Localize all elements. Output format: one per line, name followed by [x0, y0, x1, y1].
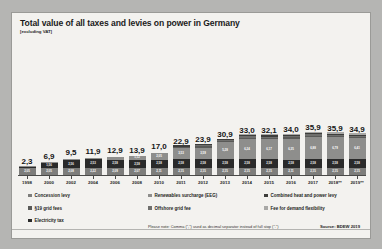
bar-segment-electricity_tax: 2,58 [217, 159, 234, 167]
x-axis-label: 2018** [326, 180, 344, 185]
legend-label: Renewables surcharge (EEG) [155, 193, 218, 198]
bar-stack: 6,412,582,15 [349, 133, 366, 175]
bar-segment-concession: 2,15 [217, 168, 234, 175]
legend-column-3: Combined heat and power levyFee for dema… [264, 193, 337, 218]
x-axis-label: 2012 [194, 180, 212, 185]
tick-mark [93, 176, 94, 179]
segment-value-label: 2,15 [310, 170, 316, 173]
bar-segment-electricity_tax: 2,58 [173, 159, 190, 167]
segment-value-label: 2,15 [222, 170, 228, 173]
bar-segment-concession: 2,11 [151, 168, 168, 175]
bar-segment-concession: 2,11 [283, 168, 300, 175]
segment-value-label: 2,11 [156, 170, 161, 173]
segment-value-label: 2,58 [200, 162, 206, 165]
segment-value-label: 2,58 [310, 162, 316, 165]
segment-value-label: 3,53 [178, 152, 184, 155]
bar-group: 2,32,056,91,562,059,52,562,0811,92,532,2… [18, 37, 366, 175]
segment-value-label: 2,15 [178, 170, 184, 173]
bar-stack: 1,122,582,07 [129, 156, 146, 175]
segment-value-label: 6,35 [288, 148, 294, 151]
segment-value-label: 2,56 [68, 163, 74, 166]
bar-segment-concession: 2,15 [261, 168, 278, 175]
segment-value-label: 2,11 [288, 170, 293, 173]
segment-value-label: 2,05 [24, 170, 30, 173]
legend-label: §19 grid fees [35, 206, 63, 211]
segment-value-label: 3,59 [200, 152, 206, 155]
footer-divider [12, 229, 370, 230]
bar-column: 32,16,172,582,15 [260, 37, 278, 175]
segment-value-label: 2,58 [222, 162, 228, 165]
bar-segment-eeg: 6,17 [261, 139, 278, 159]
tick-mark [357, 176, 358, 179]
x-axis-label: 2014 [238, 180, 256, 185]
segment-value-label: 2,22 [90, 170, 96, 173]
x-axis-label: 2004 [84, 180, 102, 185]
x-axis-label: 2008 [128, 180, 146, 185]
bar-segment-eeg: 6,88 [305, 137, 322, 160]
legend-item[interactable]: §19 grid fees [28, 206, 70, 211]
bar-stack: 5,282,582,15 [217, 139, 234, 175]
segment-value-label: 2,58 [134, 163, 140, 166]
bar-segment-eeg: 6,79 [327, 137, 344, 159]
segment-value-label: 2,58 [266, 162, 272, 165]
x-axis-label: 2015 [260, 180, 278, 185]
bar-stack: 6,352,582,11 [283, 134, 300, 175]
legend-item[interactable]: Concession levy [28, 193, 70, 198]
segment-value-label: 2,58 [354, 162, 360, 165]
bar-segment-electricity_tax: 2,58 [129, 160, 146, 168]
bar-segment-electricity_tax: 2,58 [327, 159, 344, 167]
bar-stack: 1,562,05 [41, 162, 58, 175]
segment-value-label: 2,58 [178, 162, 184, 165]
bar-stack: 6,172,582,15 [261, 134, 278, 175]
tick-mark [291, 176, 292, 179]
legend-column-2: Renewables surcharge (EEG)Offshore grid … [148, 193, 217, 218]
bar-total-label: 34,9 [337, 125, 377, 134]
bar-segment-eeg: 5,28 [217, 142, 234, 159]
segment-value-label: 2,58 [112, 162, 118, 165]
bar-column: 17,02,052,582,11 [150, 37, 168, 175]
bar-column: 33,06,242,582,15 [238, 37, 256, 175]
segment-value-label: 2,15 [354, 170, 360, 173]
legend-label: Fee for demand flexibility [271, 206, 325, 211]
legend-label: Offshore grid fee [155, 206, 191, 211]
segment-value-label: 2,15 [332, 170, 338, 173]
segment-value-label: 1,56 [46, 164, 52, 167]
tick-mark [159, 176, 160, 179]
segment-value-label: 2,05 [156, 155, 162, 158]
bar-stack: 2,582,09 [107, 157, 124, 175]
bar-stack: 6,242,582,15 [239, 134, 256, 175]
segment-value-label: 2,08 [68, 170, 74, 173]
x-axis-label: 1998 [18, 180, 36, 185]
x-axis-label: 2016 [282, 180, 300, 185]
x-axis-label: 2013 [216, 180, 234, 185]
x-axis-label: 2000 [40, 180, 58, 185]
legend-swatch-icon [28, 206, 32, 210]
bar-segment-concession: 2,15 [305, 168, 322, 175]
bar-column: 35,96,792,582,15 [326, 37, 344, 175]
legend-item[interactable]: Offshore grid fee [148, 206, 217, 211]
legend-item[interactable]: Renewables surcharge (EEG) [148, 193, 217, 198]
legend-item[interactable]: Combined heat and power levy [264, 193, 337, 198]
legend-swatch-icon [264, 194, 268, 198]
segment-value-label: 2,58 [156, 162, 162, 165]
plot-area: 2,32,056,91,562,059,52,562,0811,92,532,2… [18, 37, 366, 175]
legend-item[interactable]: Electricity tax [28, 218, 70, 223]
bar-stack: 2,562,08 [63, 159, 80, 175]
bar-segment-concession: 2,05 [41, 168, 58, 175]
bar-segment-eeg: 6,41 [349, 138, 366, 159]
chart-title: Total value of all taxes and levies on p… [20, 18, 240, 28]
screenshot-root: Total value of all taxes and levies on p… [0, 0, 382, 249]
segment-value-label: 2,58 [288, 162, 294, 165]
bar-segment-concession: 2,07 [129, 168, 146, 175]
legend-item[interactable]: Fee for demand flexibility [264, 206, 337, 211]
tick-mark [137, 176, 138, 179]
tick-mark [71, 176, 72, 179]
bar-segment-electricity_tax: 2,58 [151, 160, 168, 168]
segment-value-label: 2,58 [244, 162, 250, 165]
chart-card: Total value of all taxes and levies on p… [11, 12, 371, 239]
bar-segment-electricity_tax: 2,58 [107, 160, 124, 168]
tick-mark [313, 176, 314, 179]
segment-value-label: 2,53 [90, 162, 96, 165]
segment-value-label: 6,17 [266, 148, 272, 151]
segment-value-label: 2,15 [244, 170, 250, 173]
